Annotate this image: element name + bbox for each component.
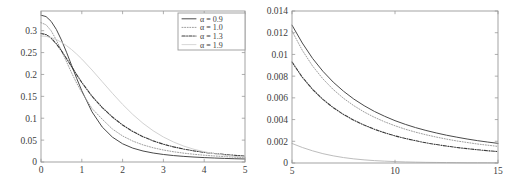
x-tick-label: 4 [202, 165, 207, 175]
left-plot-panel: 01234500.050.10.150.20.250.3α = 0.9α = 1… [0, 0, 256, 188]
curve-series-2 [41, 33, 245, 156]
y-tick-label: 0.008 [267, 72, 289, 82]
y-tick-label: 0.15 [20, 92, 37, 102]
y-tick-label: 0.006 [267, 93, 289, 103]
y-tick-label: 0.25 [20, 48, 37, 58]
right-plot-panel: 5101500.0020.0040.0060.0080.010.0120.014 [256, 0, 512, 188]
left-plot-svg: 01234500.050.10.150.20.250.3α = 0.9α = 1… [0, 0, 256, 188]
y-tick-label: 0.2 [25, 70, 37, 80]
x-tick-label: 5 [243, 165, 248, 175]
y-tick-label: 0.012 [267, 28, 289, 38]
y-tick-label: 0.3 [25, 26, 37, 36]
curve-series-3 [41, 36, 245, 157]
right-plot-svg: 5101500.0020.0040.0060.0080.010.0120.014 [256, 0, 512, 188]
y-tick-label: 0.004 [267, 115, 289, 125]
y-tick-label: 0.002 [267, 137, 289, 147]
axis-frame [292, 11, 498, 163]
curve-series-1 [292, 31, 498, 146]
x-tick-label: 1 [79, 165, 84, 175]
x-tick-label: 2 [120, 165, 125, 175]
figure-container: 01234500.050.10.150.20.250.3α = 0.9α = 1… [0, 0, 512, 188]
x-tick-label: 10 [390, 166, 400, 176]
legend: α = 0.9α = 1.0α = 1.3α = 1.9 [178, 13, 245, 50]
x-tick-label: 5 [290, 166, 295, 176]
y-tick-label: 0.014 [267, 6, 289, 16]
legend-label-3: α = 1.9 [200, 41, 223, 50]
y-tick-label: 0 [32, 157, 37, 167]
y-tick-label: 0.05 [20, 136, 37, 146]
y-tick-label: 0.1 [25, 114, 37, 124]
x-tick-label: 15 [493, 166, 503, 176]
y-tick-label: 0.01 [271, 50, 288, 60]
curve-series-2 [292, 62, 498, 152]
x-tick-label: 3 [161, 165, 166, 175]
x-tick-label: 0 [39, 165, 44, 175]
y-tick-label: 0 [283, 158, 288, 168]
